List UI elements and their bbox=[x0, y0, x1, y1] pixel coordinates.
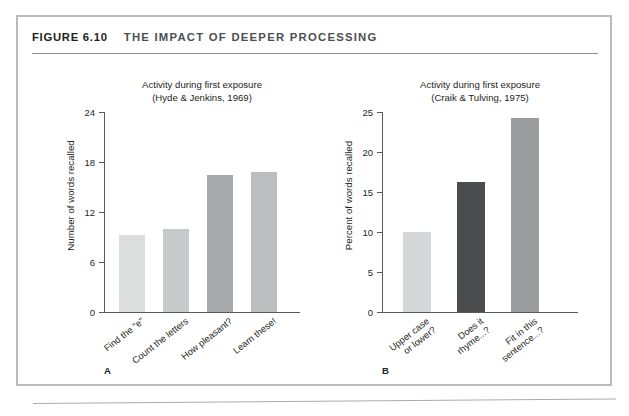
category-label: Does itrhyme...? bbox=[449, 316, 493, 358]
y-tick-label: 24 bbox=[84, 107, 95, 118]
y-tick-label: 6 bbox=[90, 257, 95, 268]
bar bbox=[119, 235, 145, 313]
category-label: Fit in thissentence...? bbox=[493, 316, 547, 365]
category-label: Find the "e" bbox=[102, 316, 147, 354]
panel-b-letter: B bbox=[382, 365, 389, 376]
page-bottom-divider bbox=[33, 398, 616, 404]
y-tick-mark bbox=[99, 312, 104, 313]
bar bbox=[207, 175, 233, 313]
y-tick-label: 12 bbox=[84, 207, 95, 218]
y-tick-mark bbox=[377, 272, 382, 273]
y-tick-label: 0 bbox=[368, 307, 373, 318]
bar bbox=[251, 172, 277, 312]
panel-a-letter: A bbox=[104, 365, 111, 376]
y-tick-mark bbox=[99, 112, 104, 113]
panel-b-plot: Percent of words recalled 0510152025 Upp… bbox=[330, 112, 600, 342]
panel-b-category-labels: Upper caseor lower?Does itrhyme...?Fit i… bbox=[383, 314, 593, 384]
y-tick-label: 25 bbox=[362, 107, 373, 118]
y-tick-mark bbox=[377, 312, 382, 313]
header-divider bbox=[32, 53, 598, 54]
category-label: Learn these! bbox=[231, 316, 279, 357]
panel-b-bars bbox=[383, 112, 578, 312]
panel-b-title-line1: Activity during first exposure bbox=[364, 79, 596, 92]
y-tick-mark bbox=[377, 192, 382, 193]
panel-b-y-axis-label: Percent of words recalled bbox=[343, 116, 354, 276]
y-tick-label: 0 bbox=[90, 307, 95, 318]
y-tick-mark bbox=[377, 232, 382, 233]
panel-a-x-axis-line bbox=[104, 312, 300, 313]
panel-a-title: Activity during first exposure (Hyde & J… bbox=[86, 79, 318, 104]
panel-b-title: Activity during first exposure (Craik & … bbox=[364, 79, 596, 104]
panel-b-title-line2: (Craik & Tulving, 1975) bbox=[364, 92, 596, 105]
category-label: Upper caseor lower? bbox=[388, 316, 439, 363]
figure-frame: FIGURE 6.10 THE IMPACT OF DEEPER PROCESS… bbox=[16, 15, 612, 386]
bar bbox=[511, 118, 539, 312]
y-tick-label: 18 bbox=[84, 157, 95, 168]
y-tick-label: 15 bbox=[362, 187, 373, 198]
figure-header: FIGURE 6.10 THE IMPACT OF DEEPER PROCESS… bbox=[32, 31, 596, 63]
panel-a-y-axis-label: Number of words recalled bbox=[65, 116, 76, 276]
y-tick-label: 10 bbox=[362, 227, 373, 238]
figure-number: FIGURE 6.10 bbox=[32, 31, 108, 43]
y-tick-mark bbox=[377, 152, 382, 153]
panel-a-title-line1: Activity during first exposure bbox=[86, 79, 318, 92]
panel-a: Activity during first exposure (Hyde & J… bbox=[52, 79, 322, 379]
panel-b: Activity during first exposure (Craik & … bbox=[330, 79, 600, 379]
panel-b-x-axis-line bbox=[382, 312, 578, 313]
panel-a-plot: Number of words recalled 06121824 Find t… bbox=[52, 112, 322, 342]
bar bbox=[403, 232, 431, 312]
y-tick-label: 5 bbox=[368, 267, 373, 278]
y-tick-mark bbox=[377, 112, 382, 113]
y-tick-label: 20 bbox=[362, 147, 373, 158]
bar bbox=[457, 182, 485, 312]
y-tick-mark bbox=[99, 262, 104, 263]
y-tick-mark bbox=[99, 212, 104, 213]
panel-a-bars bbox=[105, 112, 300, 312]
bar bbox=[163, 229, 189, 312]
panel-a-title-line2: (Hyde & Jenkins, 1969) bbox=[86, 92, 318, 105]
y-tick-mark bbox=[99, 162, 104, 163]
panel-a-category-labels: Find the "e"Count the lettersHow pleasan… bbox=[105, 314, 315, 384]
figure-title: THE IMPACT OF DEEPER PROCESSING bbox=[124, 31, 378, 43]
